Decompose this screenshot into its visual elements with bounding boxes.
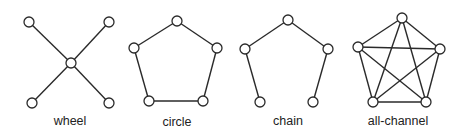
edge — [358, 47, 373, 102]
node — [397, 13, 407, 23]
node — [129, 43, 139, 53]
edge — [373, 18, 402, 102]
edge — [358, 47, 440, 49]
edge — [134, 21, 177, 48]
edge — [358, 47, 426, 102]
edge — [402, 18, 426, 102]
edge — [32, 63, 71, 103]
edge — [134, 48, 149, 101]
node — [308, 97, 318, 107]
node — [421, 97, 431, 107]
node — [435, 44, 445, 54]
edge — [177, 21, 217, 48]
node — [368, 97, 378, 107]
node — [283, 15, 293, 25]
edge — [288, 20, 328, 49]
edge — [358, 18, 402, 47]
node — [240, 44, 250, 54]
node — [144, 96, 154, 106]
network-diagram-svg: wheelcirclechainall-channel — [0, 0, 466, 134]
node — [66, 58, 76, 68]
node — [24, 17, 34, 27]
network-label: chain — [273, 114, 303, 128]
network-chain: chain — [240, 15, 333, 128]
network-circle: circle — [129, 16, 222, 129]
node — [212, 43, 222, 53]
network-label: circle — [162, 115, 191, 129]
network-label: wheel — [53, 114, 87, 128]
edge — [29, 22, 71, 63]
network-wheel: wheel — [24, 17, 114, 128]
edge — [373, 49, 440, 102]
edge — [71, 63, 109, 103]
edge — [71, 22, 109, 63]
node — [27, 98, 37, 108]
edge — [245, 20, 288, 49]
network-all-channel: all-channel — [353, 13, 445, 128]
communication-networks-diagram: wheelcirclechainall-channel — [0, 0, 466, 134]
edge — [426, 49, 440, 102]
edge — [203, 48, 217, 101]
edge — [313, 49, 328, 102]
node — [323, 44, 333, 54]
node — [104, 98, 114, 108]
node — [172, 16, 182, 26]
node — [198, 96, 208, 106]
network-label: all-channel — [368, 114, 428, 128]
edge — [245, 49, 260, 102]
edge — [402, 18, 440, 49]
node — [104, 17, 114, 27]
node — [353, 42, 363, 52]
node — [255, 97, 265, 107]
